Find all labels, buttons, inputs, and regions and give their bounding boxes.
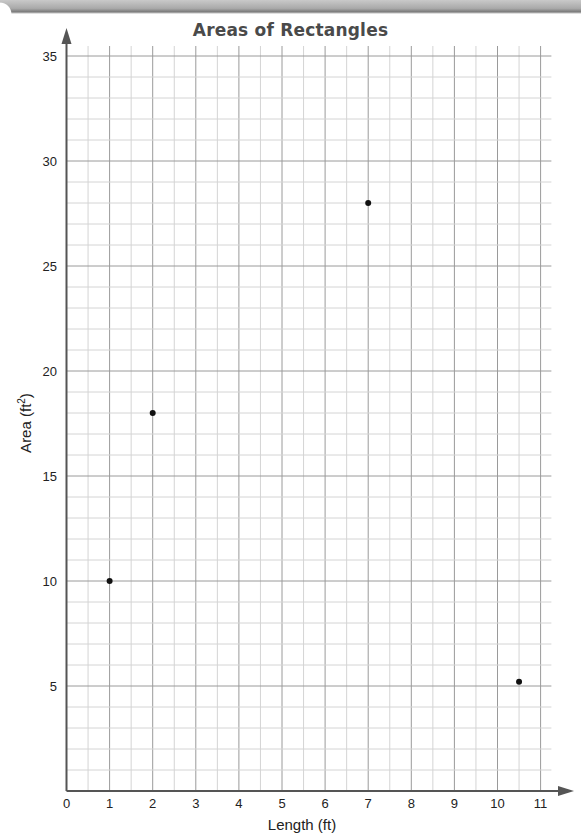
data-point [150,410,156,416]
y-tick-label: 35 [43,49,57,64]
x-tick-label: 6 [321,796,328,811]
scatter-chart: 012345678910115101520253035 Length (ft) … [0,0,581,839]
x-tick-label: 11 [534,796,548,811]
x-tick-label: 9 [451,796,458,811]
grid [67,46,552,791]
data-point [107,578,113,584]
data-point [365,200,371,206]
x-axis-label: Length (ft) [268,816,336,833]
x-tick-label: 5 [278,796,285,811]
x-tick-label: 8 [408,796,415,811]
y-tick-label: 25 [43,259,57,274]
x-tick-label: 3 [192,796,199,811]
tick-labels: 012345678910115101520253035 [43,49,548,811]
y-tick-label: 10 [43,574,57,589]
data-point [516,679,522,685]
x-tick-label: 4 [235,796,242,811]
y-tick-label: 30 [43,154,57,169]
y-axis-arrow-icon [62,28,72,44]
y-axis-label: Area (ft2) [16,393,34,453]
x-tick-label: 10 [490,796,504,811]
y-tick-label: 15 [43,469,57,484]
y-tick-label: 20 [43,364,57,379]
x-tick-label: 1 [106,796,113,811]
y-tick-label: 5 [50,679,57,694]
x-tick-label: 0 [63,796,70,811]
data-points [107,200,522,685]
x-tick-label: 7 [365,796,372,811]
x-tick-label: 2 [149,796,156,811]
x-axis-arrow-icon [558,786,574,796]
